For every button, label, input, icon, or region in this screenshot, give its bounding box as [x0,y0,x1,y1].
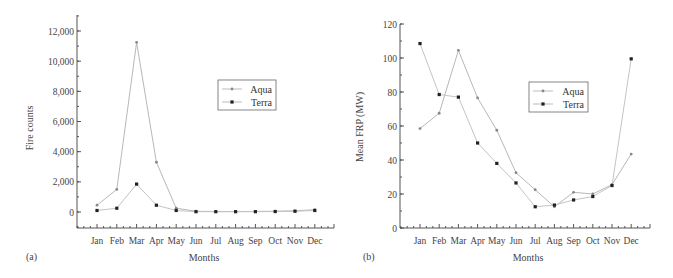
data-point-terra [274,210,277,213]
data-point-terra [95,209,98,212]
legend: AquaTerra [529,82,588,112]
series-line-terra [420,44,631,207]
y-tick-label: 0 [69,208,74,218]
y-tick-label: 20 [388,190,398,200]
data-point-terra [534,205,537,208]
x-tick-label: Sep [566,236,581,246]
data-point-terra [572,198,575,201]
legend-marker-aqua [542,90,545,93]
legend-label: Terra [563,99,585,110]
x-tick-label: Apr [470,236,486,246]
data-point-terra [495,162,498,165]
y-tick-label: 60 [388,122,398,132]
data-point-aqua [155,161,158,164]
x-tick-label: Nov [287,236,304,246]
data-point-terra [553,203,556,206]
x-tick-label: Jul [210,236,221,246]
y-tick-label: 8,000 [53,87,75,97]
x-tick-label: May [167,236,185,246]
series-line-terra [97,184,315,212]
x-tick-label: Dec [307,236,322,246]
x-tick-label: Apr [149,236,165,246]
x-tick-label: Jan [414,236,427,246]
data-point-terra [591,195,594,198]
data-point-terra [135,182,138,185]
series-line-aqua [420,50,631,206]
y-tick-label: 40 [388,156,398,166]
x-tick-label: Mar [129,236,146,246]
x-tick-label: Nov [604,236,621,246]
data-point-terra [155,204,158,207]
data-point-aqua [419,127,422,130]
data-point-aqua [572,191,575,194]
y-tick-label: 12,000 [48,27,74,37]
data-point-terra [610,184,613,187]
legend: AquaTerra [218,80,276,110]
legend-marker-terra [230,100,233,103]
x-tick-label: Sep [248,236,263,246]
y-axis-title: Mean FRP (MW) [354,92,366,162]
y-tick-label: 80 [388,88,398,98]
x-tick-label: Jul [530,236,541,246]
data-point-terra [476,141,479,144]
x-tick-label: Dec [624,236,639,246]
y-tick-label: 10,000 [48,57,74,67]
legend-label: Terra [251,97,273,108]
series-line-aqua [97,42,315,211]
panel-label: (a) [26,251,37,263]
data-point-terra [457,96,460,99]
y-tick-label: 2,000 [53,177,75,187]
y-tick-label: 4,000 [53,147,75,157]
legend-marker-aqua [231,88,234,91]
data-point-aqua [96,204,99,207]
data-point-aqua [515,171,518,174]
x-tick-label: Aug [227,236,244,246]
data-point-terra [293,210,296,213]
data-point-aqua [495,129,498,132]
y-tick-label: 100 [383,54,398,64]
data-point-terra [115,207,118,210]
y-tick-label: 6,000 [53,117,75,127]
x-axis-title: Months [513,252,544,263]
data-point-aqua [438,112,441,115]
data-point-terra [418,42,421,45]
data-point-terra [214,210,217,213]
figure: 02,0004,0006,0008,00010,00012,000JanFebM… [0,0,673,278]
x-tick-label: Oct [268,236,282,246]
y-axis-title: Fire counts [24,106,35,151]
data-point-terra [630,57,633,60]
legend-marker-terra [541,102,544,105]
data-point-terra [514,181,517,184]
data-point-aqua [630,153,633,156]
chart-panel-b: 020406080100120JanFebMarAprMayJunJulAugS… [354,20,650,264]
y-tick-label: 120 [383,20,398,30]
data-point-terra [254,210,257,213]
data-point-aqua [115,188,118,191]
data-point-aqua [457,49,460,52]
data-point-terra [313,209,316,212]
data-point-terra [234,210,237,213]
data-point-aqua [135,41,138,44]
x-tick-label: Aug [546,236,563,246]
x-tick-label: May [488,236,506,246]
x-tick-label: Oct [586,236,600,246]
data-point-terra [438,93,441,96]
x-axis-title: Months [189,252,220,263]
legend-label: Aqua [250,84,272,95]
x-tick-label: Feb [432,236,447,246]
x-tick-label: Jun [189,236,202,246]
x-tick-label: Jan [91,236,104,246]
data-point-aqua [534,188,537,191]
panel-label: (b) [363,251,375,263]
data-point-aqua [476,97,479,100]
x-tick-label: Mar [450,236,467,246]
x-tick-label: Jun [509,236,522,246]
chart-panel-a: 02,0004,0006,0008,00010,00012,000JanFebM… [24,15,334,263]
data-point-terra [194,210,197,213]
x-tick-label: Feb [110,236,125,246]
data-point-terra [175,209,178,212]
legend-label: Aqua [562,86,584,97]
y-tick-label: 0 [392,224,397,234]
